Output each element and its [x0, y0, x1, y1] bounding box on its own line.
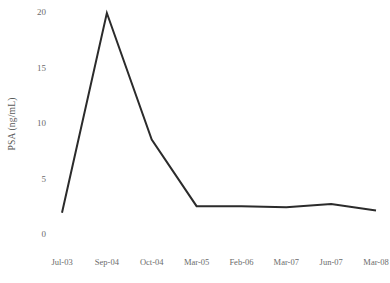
x-axis-tick-label: Oct-04 — [140, 258, 164, 267]
psa-series-line — [62, 13, 376, 213]
x-axis-tick-label: Feb-06 — [229, 258, 253, 267]
plot-area — [0, 0, 390, 283]
x-axis-tick-label: Jun-07 — [320, 258, 343, 267]
x-axis-tick-label: Mar-05 — [184, 258, 209, 267]
x-axis-tick-label: Sep-04 — [95, 258, 119, 267]
x-axis-tick-label: Mar-07 — [274, 258, 299, 267]
x-axis-tick-label: Mar-08 — [363, 258, 388, 267]
x-axis-tick-label: Jul-03 — [51, 258, 72, 267]
psa-line-chart: PSA (ng/mL) 05101520 Jul-03Sep-04Oct-04M… — [0, 0, 390, 283]
